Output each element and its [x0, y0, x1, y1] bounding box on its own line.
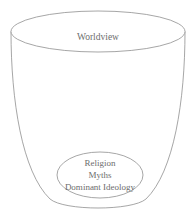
diagram-canvas: Worldview Religion Myths Dominant Ideolo… — [0, 0, 196, 220]
core-label-dominant-ideology: Dominant Ideology — [65, 182, 136, 192]
core-label-myths: Myths — [88, 170, 112, 180]
worldview-diagram: Worldview Religion Myths Dominant Ideolo… — [0, 0, 196, 220]
worldview-label: Worldview — [77, 32, 119, 42]
core-label-religion: Religion — [85, 158, 116, 168]
